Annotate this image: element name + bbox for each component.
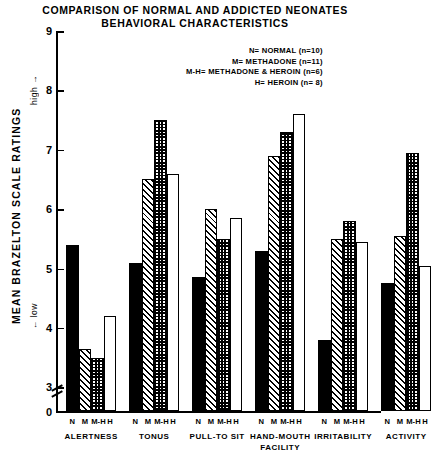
group-tick-labels: NMM-HH: [381, 417, 431, 426]
series-tick-label-n: N: [318, 417, 331, 426]
bar-irritability-m: [331, 239, 344, 411]
bar-alertness-n: [66, 245, 79, 411]
series-tick-label-m: M: [268, 417, 281, 426]
bar-activity-h: [419, 266, 432, 411]
chart-title-line-1: COMPARISON OF NORMAL AND ADDICTED NEONAT…: [42, 4, 348, 16]
x-axis-line: [56, 411, 381, 413]
x-group-label-activity: ACTIVITY: [367, 431, 435, 442]
group-tick-labels: NMM-HH: [66, 417, 116, 426]
series-tick-label-n: N: [129, 417, 142, 426]
series-tick-label-m-h: M-H: [217, 417, 230, 426]
series-tick-label-m-h: M-H: [280, 417, 293, 426]
bar-irritability-n: [318, 340, 331, 411]
y-tick-mark: [58, 387, 64, 389]
series-tick-label-m-h: M-H: [343, 417, 356, 426]
y-tick-label: 6: [46, 204, 52, 215]
y-tick-mark: [58, 31, 64, 33]
chart-title-line-2: BEHAVIORAL CHARACTERISTICS: [0, 17, 390, 30]
bar-pull-to-sit-n: [192, 277, 205, 411]
bar-alertness-m-h: [91, 358, 104, 411]
bar-activity-m-h: [406, 153, 419, 411]
y-tick-label: 8: [46, 85, 52, 96]
chart-title: COMPARISON OF NORMAL AND ADDICTED NEONAT…: [0, 4, 390, 30]
series-tick-label-m: M: [79, 417, 92, 426]
series-tick-label-m: M: [394, 417, 407, 426]
group-tick-labels: NMM-HH: [318, 417, 368, 426]
series-tick-label-n: N: [192, 417, 205, 426]
bar-pull-to-sit-m: [205, 209, 218, 411]
y-tick-mark: [58, 150, 64, 152]
bar-alertness-m: [79, 349, 92, 411]
y-tick-mark: [58, 328, 64, 330]
bar-tonus-h: [167, 174, 180, 412]
y-tick-mark: [58, 209, 64, 211]
y-axis-low-label: ← low: [29, 303, 39, 329]
y-tick-label: 7: [46, 144, 52, 155]
y-tick-label: 4: [46, 322, 52, 333]
group-tick-labels: NMM-HH: [255, 417, 305, 426]
bar-hand-mouth-facility-n: [255, 251, 268, 411]
y-axis-line: [56, 31, 58, 413]
bar-activity-m: [394, 236, 407, 411]
series-tick-label-m: M: [205, 417, 218, 426]
y-tick-label: 9: [46, 26, 52, 37]
series-tick-label-m: M: [142, 417, 155, 426]
bar-irritability-m-h: [343, 221, 356, 411]
y-axis-high-label: high →: [29, 75, 39, 105]
bar-alertness-h: [104, 316, 117, 411]
bar-activity-n: [381, 283, 394, 411]
bar-irritability-h: [356, 242, 369, 411]
bar-pull-to-sit-h: [230, 218, 243, 411]
series-tick-label-n: N: [255, 417, 268, 426]
y-tick-mark: [58, 90, 64, 92]
bar-tonus-m-h: [154, 120, 167, 411]
series-tick-label-m: M: [331, 417, 344, 426]
series-tick-label-n: N: [381, 417, 394, 426]
bar-tonus-m: [142, 179, 155, 411]
y-tick-mark: [58, 269, 64, 271]
group-tick-labels: NMM-HH: [192, 417, 242, 426]
series-tick-label-h: H: [104, 417, 117, 426]
series-tick-label-m-h: M-H: [154, 417, 167, 426]
series-tick-label-h: H: [293, 417, 306, 426]
bar-tonus-n: [129, 263, 142, 411]
y-tick-label: 3: [46, 382, 52, 393]
group-tick-labels: NMM-HH: [129, 417, 179, 426]
y-tick-label: 0: [46, 407, 52, 418]
plot-area: MEAN BRAZELTON SCALE RATINGS high → ← lo…: [56, 31, 381, 413]
series-tick-label-n: N: [66, 417, 79, 426]
y-tick-label: 5: [46, 263, 52, 274]
series-tick-label-h: H: [356, 417, 369, 426]
series-tick-label-h: H: [419, 417, 432, 426]
bar-pull-to-sit-m-h: [217, 239, 230, 411]
bar-hand-mouth-facility-m-h: [280, 132, 293, 411]
series-tick-label-m-h: M-H: [91, 417, 104, 426]
bar-hand-mouth-facility-m: [268, 156, 281, 411]
bar-hand-mouth-facility-h: [293, 114, 306, 411]
y-axis-title: MEAN BRAZELTON SCALE RATINGS: [10, 66, 24, 366]
series-tick-label-m-h: M-H: [406, 417, 419, 426]
series-tick-label-h: H: [230, 417, 243, 426]
series-tick-label-h: H: [167, 417, 180, 426]
